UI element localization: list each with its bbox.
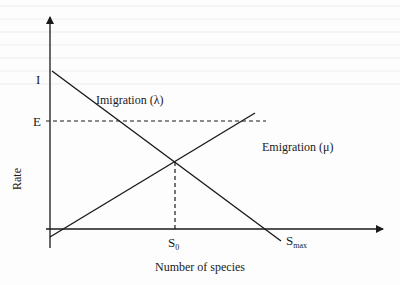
emigration-line (50, 113, 255, 237)
plot-area (0, 0, 400, 285)
immigration-label: Imigration (λ) (96, 94, 163, 106)
diagram-canvas: I E Imigration (λ) Emigration (μ) S0 Sma… (0, 0, 400, 285)
y-mark-i: I (36, 73, 40, 86)
emigration-label: Emigration (μ) (262, 141, 333, 153)
x-mark-smax: Smax (286, 234, 307, 250)
s0-subscript: 0 (175, 243, 179, 252)
smax-subscript: max (293, 241, 307, 250)
y-mark-e: E (33, 115, 41, 128)
x-axis-label: Number of species (155, 261, 245, 273)
y-axis-label: Rate (11, 168, 23, 190)
x-mark-s0: S0 (168, 236, 179, 252)
